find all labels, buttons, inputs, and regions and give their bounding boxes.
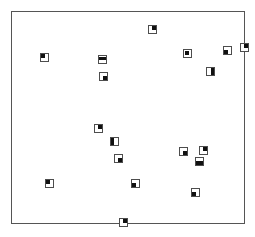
data-point-fill <box>123 219 127 223</box>
data-point <box>179 147 188 156</box>
data-point-fill <box>183 151 187 155</box>
plot-border <box>11 11 245 224</box>
scatter-plot-figure <box>0 0 255 237</box>
data-point-fill <box>203 147 207 151</box>
data-point-fill <box>152 26 156 30</box>
data-point-fill <box>192 192 196 196</box>
data-point-fill <box>211 68 214 75</box>
data-point-fill <box>103 76 107 80</box>
data-point-fill <box>244 44 248 48</box>
data-point <box>223 46 232 55</box>
data-point <box>148 25 157 34</box>
data-point <box>119 218 128 227</box>
data-point-fill <box>224 50 228 54</box>
data-point <box>94 124 103 133</box>
data-point-fill <box>98 125 102 129</box>
data-point <box>183 49 192 58</box>
data-point-fill <box>111 138 114 145</box>
data-point <box>114 154 123 163</box>
data-point <box>99 72 108 81</box>
data-point-fill <box>132 183 136 187</box>
data-point-fill <box>46 180 50 184</box>
data-point <box>110 137 119 146</box>
data-point <box>191 188 200 197</box>
data-point <box>131 179 140 188</box>
data-point <box>98 55 107 64</box>
data-point-fill <box>41 54 45 58</box>
data-point <box>195 157 204 166</box>
data-point-fill <box>99 57 106 60</box>
data-point-fill <box>185 51 189 55</box>
data-point <box>206 67 215 76</box>
data-point <box>240 43 249 52</box>
data-point <box>40 53 49 62</box>
data-point-fill <box>118 158 122 162</box>
data-point <box>199 146 208 155</box>
data-point-fill <box>199 161 203 165</box>
data-point <box>45 179 54 188</box>
